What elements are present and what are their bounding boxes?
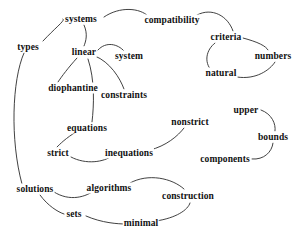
- graph-edge: [130, 178, 184, 189]
- graph-edge: [207, 43, 215, 70]
- graph-node-linear[interactable]: linear: [71, 47, 97, 58]
- graph-edge: [237, 62, 275, 78]
- graph-edge: [57, 132, 76, 147]
- graph-node-upper[interactable]: upper: [233, 105, 260, 116]
- concept-graph: typessystemscompatibilitylinearsystemcri…: [0, 0, 300, 240]
- graph-edge: [243, 38, 268, 50]
- graph-edge: [14, 53, 24, 184]
- graph-node-strict[interactable]: strict: [46, 148, 70, 159]
- graph-node-minimal[interactable]: minimal: [123, 218, 159, 229]
- graph-edge: [84, 25, 86, 46]
- graph-node-components[interactable]: components: [199, 154, 251, 165]
- graph-node-compatibility[interactable]: compatibility: [143, 15, 200, 26]
- graph-edge: [197, 12, 233, 31]
- graph-edge: [252, 143, 273, 159]
- graph-node-bounds[interactable]: bounds: [257, 132, 289, 143]
- graph-node-systems[interactable]: systems: [64, 14, 98, 25]
- graph-edge: [150, 128, 184, 150]
- graph-node-sets[interactable]: sets: [65, 209, 82, 220]
- graph-node-solutions[interactable]: solutions: [16, 184, 55, 195]
- graph-node-nonstrict[interactable]: nonstrict: [170, 117, 209, 128]
- graph-edge: [86, 216, 126, 224]
- graph-node-types[interactable]: types: [16, 42, 40, 53]
- graph-node-construction[interactable]: construction: [161, 191, 215, 202]
- graph-node-constraints[interactable]: constraints: [100, 90, 148, 101]
- graph-edge: [43, 19, 64, 41]
- edge-layer: [0, 0, 300, 240]
- graph-edge: [58, 58, 77, 82]
- graph-node-numbers[interactable]: numbers: [254, 51, 293, 62]
- graph-node-algorithms[interactable]: algorithms: [86, 183, 133, 194]
- graph-edge: [104, 9, 148, 17]
- graph-node-system[interactable]: system: [114, 51, 144, 62]
- graph-node-inequations[interactable]: inequations: [104, 148, 154, 159]
- graph-edge: [40, 195, 64, 214]
- graph-edge: [261, 110, 275, 131]
- graph-node-equations[interactable]: equations: [66, 123, 108, 134]
- graph-node-natural[interactable]: natural: [205, 68, 238, 79]
- graph-node-diophantine[interactable]: diophantine: [47, 83, 99, 94]
- graph-edge: [156, 203, 190, 221]
- graph-node-criteria[interactable]: criteria: [210, 32, 243, 43]
